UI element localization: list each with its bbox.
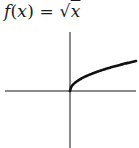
plot-area: [0, 0, 139, 148]
sqrt-curve: [70, 61, 136, 91]
